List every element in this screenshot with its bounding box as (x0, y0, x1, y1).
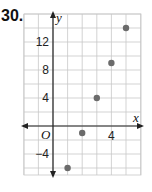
x-axis-label: x (132, 110, 139, 125)
y-axis-arrow-down-icon (50, 171, 56, 178)
data-point (123, 25, 129, 31)
y-tick-label: −4 (35, 147, 49, 161)
data-point (94, 95, 100, 101)
x-axis-arrow-left-icon (21, 123, 28, 129)
y-axis-label: y (54, 10, 62, 25)
coordinate-plane: xyO1284−44 (0, 0, 152, 192)
data-point (64, 165, 70, 171)
origin-label: O (41, 127, 51, 142)
y-tick-label: 4 (42, 91, 49, 105)
data-point (79, 130, 85, 136)
data-point (108, 60, 114, 66)
y-tick-label: 8 (42, 63, 49, 77)
x-tick-label: 4 (108, 129, 115, 143)
y-tick-label: 12 (36, 35, 50, 49)
